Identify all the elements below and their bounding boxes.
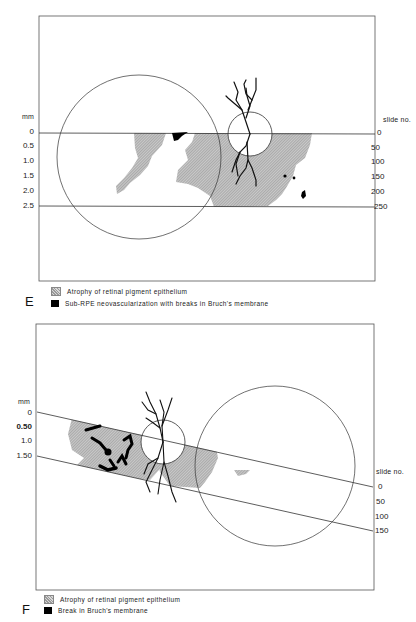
legend-label: Atrophy of retinal pigment epithelium xyxy=(60,596,180,603)
left-axis-tick: 0 xyxy=(6,408,32,417)
left-axis-tick: 0.50 xyxy=(6,422,32,431)
right-axis-tick: 0 xyxy=(378,482,382,491)
legend-item-atrophy: Atrophy of retinal pigment epithelium xyxy=(44,595,180,604)
line-2.5mm xyxy=(39,206,375,207)
left-axis-tick: 1.0 xyxy=(6,436,32,445)
left-axis-tick: 0 xyxy=(8,127,34,136)
right-axis-tick: 50 xyxy=(371,143,380,152)
hatched-swatch-icon xyxy=(51,287,61,296)
left-axis-tick: 1.5 xyxy=(8,171,34,180)
solid-swatch-icon xyxy=(44,607,52,614)
right-axis-tick: 100 xyxy=(371,157,384,166)
left-axis-tick: 1.50 xyxy=(6,451,32,460)
panel-label: E xyxy=(25,294,34,309)
left-axis-title: mm xyxy=(22,113,34,120)
right-axis-tick: 150 xyxy=(371,172,384,181)
neovascularization-lesion xyxy=(172,132,188,141)
solid-swatch-icon xyxy=(51,300,59,307)
panel-e: mm 0 0.5 1.0 1.5 2.0 2.5 slide no. 0 50 … xyxy=(0,0,416,310)
neovascularization-dot xyxy=(283,174,286,177)
neovascularization-dot xyxy=(293,177,296,180)
right-axis-tick: 250 xyxy=(374,202,387,211)
right-axis-tick: 150 xyxy=(375,526,388,535)
line-0mm xyxy=(39,133,375,134)
neovascularization-lesion xyxy=(301,190,306,199)
left-axis-tick: 1.0 xyxy=(8,156,34,165)
left-axis-tick: 2.5 xyxy=(8,201,34,210)
atrophy-region-small xyxy=(234,470,250,476)
legend-label: Sub-RPE neovascularization with breaks i… xyxy=(65,300,269,307)
left-axis-tick: 0.5 xyxy=(8,141,34,150)
right-axis-title: slide no. xyxy=(383,116,411,123)
fundus-map-e xyxy=(0,0,416,310)
legend-label: Atrophy of retinal pigment epithelium xyxy=(67,288,187,295)
panel-label: F xyxy=(22,602,30,617)
right-axis-tick: 100 xyxy=(375,512,388,521)
fundus-map-f xyxy=(0,310,416,622)
right-axis-tick: 200 xyxy=(371,187,384,196)
right-axis-tick: 50 xyxy=(376,497,385,506)
left-axis-title: mm xyxy=(18,398,30,405)
legend-label: Break in Bruch's membrane xyxy=(58,607,148,614)
left-axis-tick: 2.0 xyxy=(8,186,34,195)
atrophy-region-left xyxy=(116,133,166,194)
panel-f: mm 0 0.50 1.0 1.50 slide no. 0 50 100 15… xyxy=(0,310,416,622)
legend-item-neovascularization: Sub-RPE neovascularization with breaks i… xyxy=(51,300,269,307)
legend-item-atrophy: Atrophy of retinal pigment epithelium xyxy=(51,287,187,296)
legend-item-bruchs-break: Break in Bruch's membrane xyxy=(44,607,148,614)
hatched-swatch-icon xyxy=(44,595,54,604)
right-axis-tick: 0 xyxy=(377,128,381,137)
right-axis-title: slide no. xyxy=(376,468,404,475)
